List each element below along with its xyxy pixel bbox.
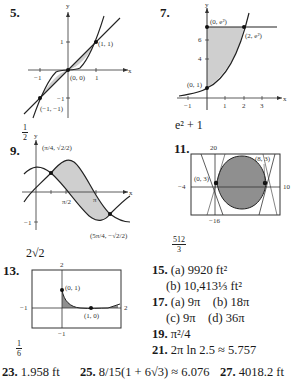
svg-text:2: 2 <box>60 261 64 269</box>
answer-17-ab: 17. (a) 9π (b) 18π <box>152 295 249 310</box>
svg-text:x: x <box>128 67 132 75</box>
svg-text:−16: −16 <box>209 217 220 225</box>
svg-text:2: 2 <box>242 102 246 110</box>
svg-text:(1, 0): (1, 0) <box>84 312 100 320</box>
svg-text:(1, 1): (1, 1) <box>98 40 114 48</box>
svg-text:1: 1 <box>95 74 99 82</box>
svg-text:1: 1 <box>223 102 227 110</box>
answer-21: 21. 2π ln 2.5 ≈ 5.757 <box>152 343 256 358</box>
svg-text:−1: −1 <box>184 102 192 110</box>
svg-text:(0, e²): (0, e²) <box>210 18 228 26</box>
answer-13: 16 <box>16 338 22 358</box>
svg-text:−1: −1 <box>57 95 65 103</box>
svg-text:6: 6 <box>198 36 202 44</box>
svg-text:(8, 3): (8, 3) <box>255 155 271 163</box>
answer-15-b: (b) 10,413⅓ ft² <box>166 279 242 294</box>
answer-17-cd: (c) 9π (d) 36π <box>166 311 245 326</box>
graph-problem-13: 2 −1 −1 2 (0, 1) (1, 0) <box>0 255 147 335</box>
svg-text:−1: −1 <box>20 304 28 312</box>
svg-text:−1: −1 <box>58 330 66 338</box>
svg-text:(0, 3): (0, 3) <box>194 175 210 183</box>
svg-text:4: 4 <box>198 55 202 63</box>
svg-text:−1: −1 <box>24 219 32 227</box>
graph-problem-7: y x (0, e²) (2, e²) (0, 1) 6 4 −1 1 2 3 <box>147 0 294 110</box>
svg-text:10: 10 <box>283 183 291 191</box>
svg-text:(0, 1): (0, 1) <box>65 284 81 292</box>
answer-23: 23. 1.958 ft <box>2 365 60 380</box>
answer-15-a: 15. (a) 9920 ft² <box>152 263 227 278</box>
svg-text:(π/4, √2/2): (π/4, √2/2) <box>42 144 73 152</box>
answer-11: 5123 <box>172 234 186 254</box>
graph-problem-9: y x (π/4, √2/2) (5π/4, −√2/2) π/2 π −1 <box>0 130 147 240</box>
svg-text:π/2: π/2 <box>62 198 71 206</box>
svg-text:x: x <box>129 189 133 197</box>
svg-text:(2, e²): (2, e²) <box>245 32 263 40</box>
svg-text:2: 2 <box>124 304 128 312</box>
svg-text:(5π/4, −√2/2): (5π/4, −√2/2) <box>90 232 128 240</box>
graph-problem-11: 20 −16 −4 10 (0, 3) (8, 3) <box>147 130 294 240</box>
answer-27: 27. 4018.2 ft <box>220 365 284 380</box>
graph-problem-5: y x (1, 1) (0, 0) (−1, −1) 1 −1 1 −1 <box>0 0 147 125</box>
svg-text:π: π <box>93 196 97 204</box>
answer-19: 19. π²/4 <box>152 327 191 342</box>
svg-text:y: y <box>205 1 209 9</box>
svg-text:−4: −4 <box>178 183 186 191</box>
svg-text:20: 20 <box>210 144 218 152</box>
svg-text:(−1, −1): (−1, −1) <box>40 105 64 113</box>
svg-text:(0, 1): (0, 1) <box>187 81 203 89</box>
svg-text:y: y <box>34 132 38 140</box>
y-axis-label: y <box>66 2 70 10</box>
svg-text:−1: −1 <box>34 74 42 82</box>
svg-text:1: 1 <box>60 38 64 46</box>
svg-text:3: 3 <box>260 102 264 110</box>
svg-text:(0, 0): (0, 0) <box>70 74 86 82</box>
svg-text:x: x <box>283 95 287 103</box>
answer-25: 25. 8/15(1 + 6√3) ≈ 6.076 <box>80 365 209 380</box>
